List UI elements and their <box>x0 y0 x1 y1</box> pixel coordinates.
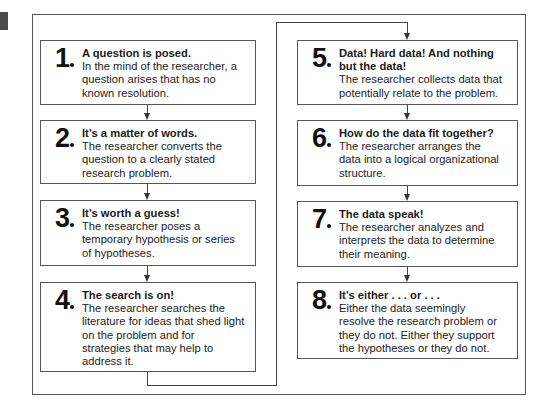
step-desc-line: The researcher collects data that <box>339 73 511 86</box>
step-title: Data! Hard data! And nothing <box>339 47 511 60</box>
step-desc-line: their meaning. <box>339 248 511 261</box>
step-number: 1 <box>55 45 70 72</box>
arrow-line-3-4 <box>147 266 148 275</box>
step-box-7: 7 The data speak! The researcher analyze… <box>297 201 518 267</box>
step-desc-line: Either the data seemingly <box>339 302 511 315</box>
step-title-line-2: but the data! <box>339 60 511 73</box>
step-title: The search is on! <box>82 289 249 302</box>
step-box-5: 5 Data! Hard data! And nothing but the d… <box>297 40 518 105</box>
step-box-1: 1 A question is posed. In the mind of th… <box>40 40 256 105</box>
step-desc-line: data into a logical organizational <box>339 153 511 166</box>
step-desc-line: structure. <box>339 167 511 180</box>
step-title: It’s worth a guess! <box>82 207 249 220</box>
step-desc-line: strategies that may help to <box>82 342 249 355</box>
step-number-dot <box>70 63 74 67</box>
step-title: It’s a matter of words. <box>82 127 249 140</box>
page-corner-tab <box>0 12 8 30</box>
connector-vertical-middle <box>276 22 277 386</box>
arrow-line-5-6 <box>407 104 408 113</box>
step-desc-line: resolve the research problem or <box>339 315 511 328</box>
step-box-8: 8 It’s either . . . or . . . Either the … <box>297 282 518 359</box>
connector-down-from-step-4 <box>147 371 148 386</box>
step-number: 2 <box>55 125 70 152</box>
step-number-dot <box>70 223 74 227</box>
step-desc-line: The researcher arranges the <box>339 140 511 153</box>
step-desc-line: question to a clearly stated <box>82 153 249 166</box>
step-box-4: 4 The search is on! The researcher searc… <box>40 282 256 372</box>
step-desc-line: known resolution. <box>82 87 249 100</box>
step-title: It’s either . . . or . . . <box>339 289 511 302</box>
step-desc-line: The researcher poses a <box>82 220 249 233</box>
step-desc-line: the hypotheses or they do not. <box>339 342 511 355</box>
arrow-7-8 <box>404 275 410 282</box>
step-number: 7 <box>312 206 327 233</box>
step-number: 8 <box>312 287 327 314</box>
step-desc-line: interprets the data to determine <box>339 234 511 247</box>
step-number: 5 <box>312 45 327 72</box>
arrow-2-3 <box>144 193 150 200</box>
step-title: How do the data fit together? <box>339 127 511 140</box>
step-title: A question is posed. <box>82 47 249 60</box>
arrow-3-4 <box>144 275 150 282</box>
step-desc-line: they do not. Either they support <box>339 329 511 342</box>
step-desc-line: The researcher analyzes and <box>339 221 511 234</box>
arrow-line-6-7 <box>407 186 408 194</box>
step-desc-line: literature for ideas that shed light <box>82 315 249 328</box>
arrow-1-2 <box>144 113 150 120</box>
step-desc-line: research problem. <box>82 167 249 180</box>
step-desc-line: temporary hypothesis or series <box>82 233 249 246</box>
step-box-6: 6 How do the data fit together? The rese… <box>297 120 518 186</box>
connector-top-horizontal <box>276 22 408 23</box>
step-desc-line: of hypotheses. <box>82 247 249 260</box>
step-number-dot <box>70 143 74 147</box>
step-desc-line: address it. <box>82 355 249 368</box>
step-number: 4 <box>55 287 70 314</box>
arrow-6-7 <box>404 194 410 201</box>
arrow-into-step-5 <box>404 33 410 40</box>
step-desc-line: potentially relate to the problem. <box>339 87 511 100</box>
connector-bottom-horizontal <box>147 385 277 386</box>
step-box-3: 3 It’s worth a guess! The researcher pos… <box>40 200 256 266</box>
step-number-dot <box>327 143 331 147</box>
step-desc-line: In the mind of the researcher, a <box>82 60 249 73</box>
step-desc-line: The researcher searches the <box>82 302 249 315</box>
step-number-dot <box>327 224 331 228</box>
arrow-line-1-2 <box>147 104 148 113</box>
arrow-line-2-3 <box>147 184 148 193</box>
step-desc-line: The researcher converts the <box>82 140 249 153</box>
step-box-2: 2 It’s a matter of words. The researcher… <box>40 120 256 184</box>
step-number-dot <box>327 63 331 67</box>
step-number: 3 <box>55 205 70 232</box>
step-desc-line: question arises that has no <box>82 73 249 86</box>
step-number: 6 <box>312 125 327 152</box>
step-number-dot <box>327 305 331 309</box>
arrow-line-7-8 <box>407 267 408 275</box>
step-title: The data speak! <box>339 208 511 221</box>
step-desc-line: on the problem and for <box>82 329 249 342</box>
arrow-5-6 <box>404 113 410 120</box>
step-number-dot <box>70 305 74 309</box>
